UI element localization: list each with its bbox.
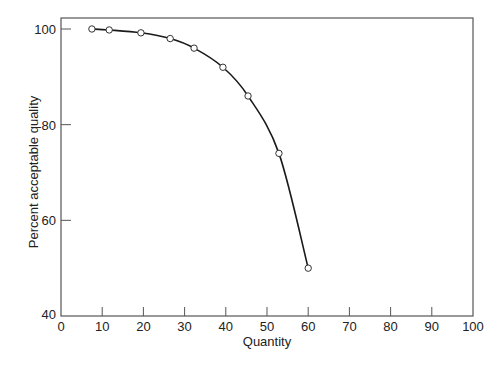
data-point-marker <box>167 35 173 41</box>
data-point-marker <box>305 265 311 271</box>
data-point-marker <box>138 30 144 36</box>
x-tick-label: 30 <box>177 319 191 334</box>
quality-chart: 0102030405060708090100 406080100 Quantit… <box>0 0 503 371</box>
data-point-marker <box>245 93 251 99</box>
y-tick-label: 40 <box>42 307 56 322</box>
x-tick-label: 10 <box>95 319 109 334</box>
y-tick-label: 100 <box>34 22 56 37</box>
plot-frame <box>61 18 473 316</box>
x-tick-label: 50 <box>260 319 274 334</box>
x-tick-label: 60 <box>301 319 315 334</box>
x-tick-label: 70 <box>342 319 356 334</box>
y-axis-label: Percent acceptable quality <box>26 95 41 248</box>
y-tick-label: 80 <box>42 118 56 133</box>
y-tick-label: 60 <box>42 213 56 228</box>
data-point-marker <box>191 45 197 51</box>
data-point-marker <box>106 27 112 33</box>
data-point-marker <box>220 64 226 70</box>
data-point-marker <box>89 26 95 32</box>
data-series <box>89 26 312 272</box>
x-tick-label: 20 <box>136 319 150 334</box>
x-tick-label: 0 <box>57 319 64 334</box>
x-tick-label: 40 <box>219 319 233 334</box>
x-axis: 0102030405060708090100 <box>57 307 483 334</box>
series-line <box>92 29 308 268</box>
x-axis-label: Quantity <box>243 334 292 349</box>
x-tick-label: 100 <box>462 319 484 334</box>
data-point-marker <box>276 150 282 156</box>
x-tick-label: 90 <box>425 319 439 334</box>
plot-border <box>61 18 473 316</box>
x-tick-label: 80 <box>383 319 397 334</box>
